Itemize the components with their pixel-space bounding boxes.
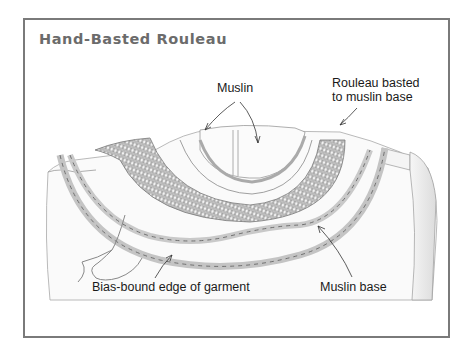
- label-bias-bound-edge: Bias-bound edge of garment: [92, 280, 250, 294]
- label-muslin-base: Muslin base: [320, 280, 387, 294]
- figure-title: Hand-Basted Rouleau: [39, 31, 227, 47]
- label-rouleau-basted: Rouleau basted to muslin base: [332, 76, 420, 104]
- label-rouleau-line2: to muslin base: [332, 90, 420, 104]
- arrow-rouleau: [340, 108, 357, 125]
- label-rouleau-line1: Rouleau basted: [332, 76, 420, 90]
- garment-illustration: [0, 0, 471, 348]
- label-muslin: Muslin: [217, 81, 253, 95]
